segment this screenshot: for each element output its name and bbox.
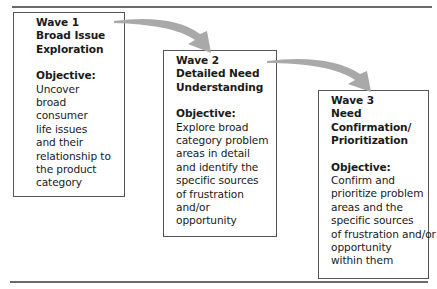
- arrow-wave1-to-wave2-icon: [114, 19, 211, 53]
- arrow-wave2-to-wave3-icon: [267, 59, 371, 92]
- arrows-layer: [0, 0, 437, 289]
